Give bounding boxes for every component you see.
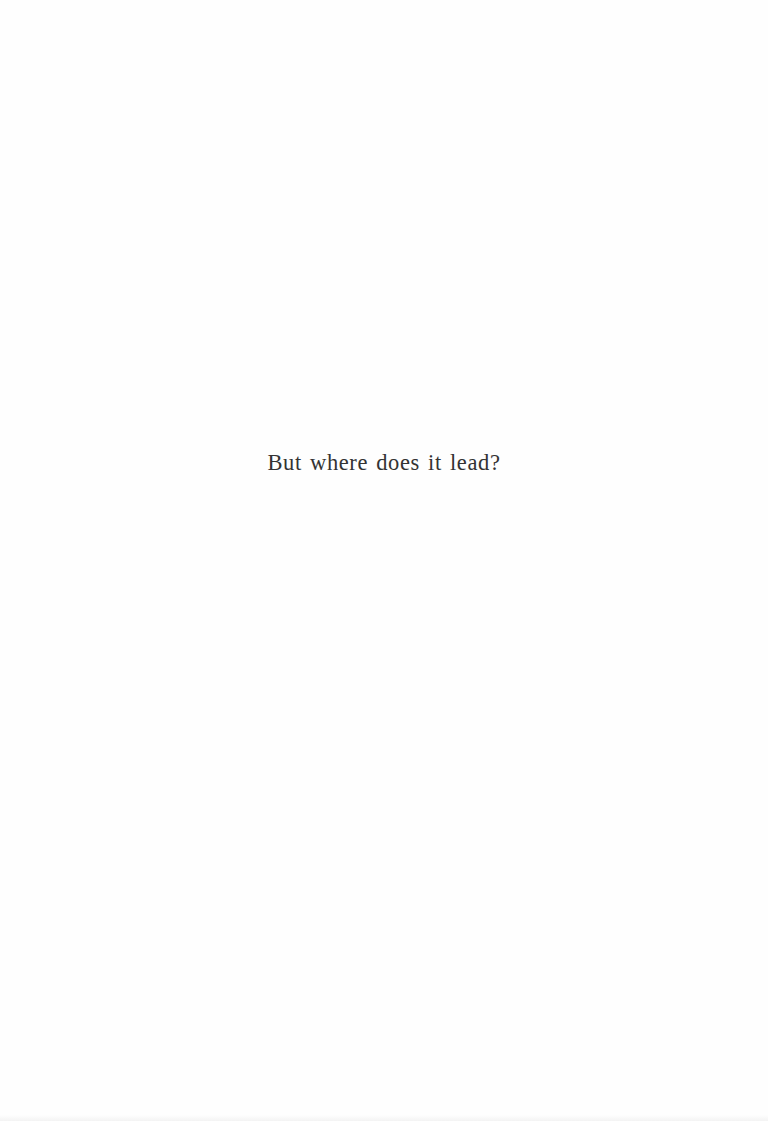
centered-text-line: But where does it lead? — [0, 448, 768, 478]
book-page: But where does it lead? — [0, 0, 768, 1121]
